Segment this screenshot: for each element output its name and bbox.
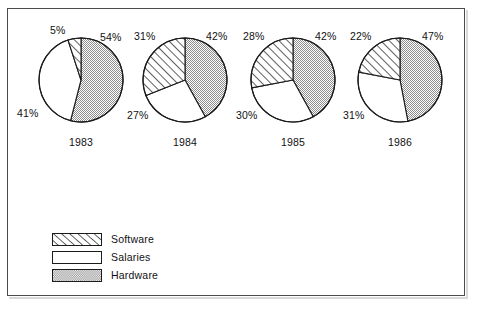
pie-1983-label-salaries: 41% bbox=[17, 107, 39, 119]
pie-1986-label-software: 22% bbox=[350, 30, 372, 42]
pie-1984-label-software: 31% bbox=[134, 30, 156, 42]
legend-swatch-software bbox=[52, 233, 102, 246]
year-label-1985: 1985 bbox=[268, 136, 318, 148]
legend-label-software: Software bbox=[111, 233, 154, 245]
legend-swatch-salaries bbox=[52, 251, 102, 264]
pie-1983-label-hardware: 54% bbox=[100, 31, 122, 43]
legend-label-salaries: Salaries bbox=[111, 251, 151, 263]
legend-item-software: Software bbox=[52, 230, 158, 248]
pie-1985-label-hardware: 42% bbox=[315, 30, 337, 42]
pie-1985-label-software: 28% bbox=[243, 30, 265, 42]
pie-1986-label-salaries: 31% bbox=[343, 109, 365, 121]
legend-swatch-hardware bbox=[52, 269, 102, 282]
year-label-1984: 1984 bbox=[160, 136, 210, 148]
figure-canvas: 54%41%5%42%27%31%42%30%28%47%31%22%19831… bbox=[0, 0, 477, 311]
pie-1984-label-salaries: 27% bbox=[127, 109, 149, 121]
legend-item-hardware: Hardware bbox=[52, 266, 158, 284]
pie-1985-label-salaries: 30% bbox=[236, 109, 258, 121]
pie-1983-label-software: 5% bbox=[50, 24, 66, 36]
legend-item-salaries: Salaries bbox=[52, 248, 158, 266]
legend-label-hardware: Hardware bbox=[111, 269, 158, 281]
legend: SoftwareSalariesHardware bbox=[52, 230, 158, 284]
year-label-1986: 1986 bbox=[375, 136, 425, 148]
pie-1986-label-hardware: 47% bbox=[422, 30, 444, 42]
pie-1984-label-hardware: 42% bbox=[206, 30, 228, 42]
year-label-1983: 1983 bbox=[56, 136, 106, 148]
